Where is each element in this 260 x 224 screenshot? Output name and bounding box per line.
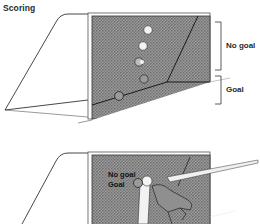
puck-icon [140, 75, 148, 83]
inner-no-goal-label: No goal [108, 170, 136, 179]
goal-side-outline [5, 14, 88, 110]
stick-icon [138, 184, 150, 224]
puck-icon [134, 179, 143, 188]
goal-label: Goal [226, 85, 244, 94]
goal-side-outline [22, 153, 88, 224]
goal-net-shaded [92, 155, 210, 224]
puck-icon [115, 92, 124, 101]
no-goal-label: No goal [226, 41, 255, 50]
no-goal-bracket [215, 22, 221, 70]
bottom-goal [22, 152, 258, 224]
puck-icon [144, 26, 152, 34]
scoring-illustration [0, 0, 260, 224]
top-goal [5, 13, 230, 123]
inner-goal-label: Goal [108, 180, 125, 189]
puck-icon [139, 42, 147, 50]
